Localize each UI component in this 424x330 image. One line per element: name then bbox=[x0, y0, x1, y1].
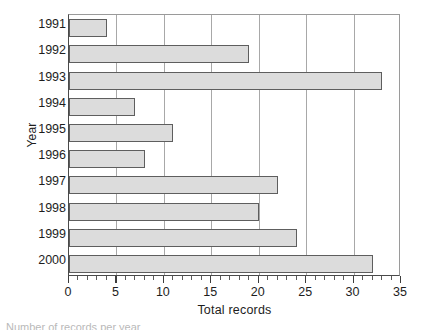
x-major-tick-10 bbox=[163, 276, 164, 283]
x-tick-label-35: 35 bbox=[380, 285, 420, 299]
x-minor-tick-34 bbox=[391, 276, 392, 280]
bar-1996 bbox=[69, 150, 145, 168]
bar-1992 bbox=[69, 45, 249, 63]
x-minor-tick-16 bbox=[220, 276, 221, 280]
x-minor-tick-21 bbox=[267, 276, 268, 280]
x-minor-tick-31 bbox=[362, 276, 363, 280]
x-minor-tick-14 bbox=[201, 276, 202, 280]
x-minor-tick-28 bbox=[334, 276, 335, 280]
x-major-tick-20 bbox=[258, 276, 259, 283]
x-minor-tick-26 bbox=[315, 276, 316, 280]
x-minor-tick-32 bbox=[372, 276, 373, 280]
x-tick-label-20: 20 bbox=[238, 285, 278, 299]
x-minor-tick-18 bbox=[239, 276, 240, 280]
y-axis-tick-labels: 1991199219931994199519961997199819992000 bbox=[24, 12, 66, 276]
bar-1995 bbox=[69, 124, 173, 142]
x-minor-tick-22 bbox=[277, 276, 278, 280]
x-minor-tick-9 bbox=[153, 276, 154, 280]
x-tick-label-15: 15 bbox=[190, 285, 230, 299]
bar-2000 bbox=[69, 255, 373, 273]
bar-1999 bbox=[69, 229, 297, 247]
bar-1991 bbox=[69, 19, 107, 37]
bar-1994 bbox=[69, 98, 135, 116]
x-minor-tick-1 bbox=[77, 276, 78, 280]
y-tick-label-1992: 1992 bbox=[24, 44, 66, 56]
x-minor-tick-33 bbox=[381, 276, 382, 280]
x-tick-label-5: 5 bbox=[95, 285, 135, 299]
y-tick-label-1999: 1999 bbox=[24, 228, 66, 240]
caption-sliver: Number of records per year bbox=[6, 322, 206, 330]
x-major-tick-25 bbox=[305, 276, 306, 283]
bar-row bbox=[69, 72, 401, 90]
bar-row bbox=[69, 229, 401, 247]
y-tick-label-1993: 1993 bbox=[24, 71, 66, 83]
plot-area bbox=[68, 14, 400, 276]
x-minor-tick-3 bbox=[96, 276, 97, 280]
y-tick-label-1994: 1994 bbox=[24, 97, 66, 109]
x-minor-tick-6 bbox=[125, 276, 126, 280]
x-major-tick-5 bbox=[115, 276, 116, 283]
x-tick-label-30: 30 bbox=[333, 285, 373, 299]
x-minor-tick-8 bbox=[144, 276, 145, 280]
x-axis-tick-marks bbox=[68, 276, 401, 283]
x-minor-tick-29 bbox=[343, 276, 344, 280]
y-tick-label-1998: 1998 bbox=[24, 202, 66, 214]
x-tick-label-25: 25 bbox=[285, 285, 325, 299]
x-major-tick-35 bbox=[400, 276, 401, 283]
x-major-tick-15 bbox=[210, 276, 211, 283]
bar-row bbox=[69, 255, 401, 273]
bar-chart-figure: Year 19911992199319941995199619971998199… bbox=[0, 0, 424, 330]
bar-1997 bbox=[69, 176, 278, 194]
bar-row bbox=[69, 150, 401, 168]
bar-row bbox=[69, 176, 401, 194]
bar-row bbox=[69, 19, 401, 37]
x-minor-tick-19 bbox=[248, 276, 249, 280]
x-minor-tick-2 bbox=[87, 276, 88, 280]
x-tick-label-0: 0 bbox=[48, 285, 88, 299]
y-tick-label-2000: 2000 bbox=[24, 254, 66, 266]
x-minor-tick-24 bbox=[296, 276, 297, 280]
bar-1998 bbox=[69, 203, 259, 221]
x-major-tick-30 bbox=[353, 276, 354, 283]
x-tick-label-10: 10 bbox=[143, 285, 183, 299]
x-minor-tick-4 bbox=[106, 276, 107, 280]
x-minor-tick-27 bbox=[324, 276, 325, 280]
x-axis-tick-labels: 05101520253035 bbox=[0, 285, 424, 301]
y-tick-label-1991: 1991 bbox=[24, 18, 66, 30]
bar-row bbox=[69, 124, 401, 142]
x-minor-tick-7 bbox=[134, 276, 135, 280]
bar-1993 bbox=[69, 72, 382, 90]
bar-row bbox=[69, 98, 401, 116]
y-tick-label-1996: 1996 bbox=[24, 149, 66, 161]
x-minor-tick-11 bbox=[172, 276, 173, 280]
y-tick-label-1995: 1995 bbox=[24, 123, 66, 135]
bar-row bbox=[69, 45, 401, 63]
y-tick-label-1997: 1997 bbox=[24, 175, 66, 187]
x-minor-tick-23 bbox=[286, 276, 287, 280]
x-major-tick-0 bbox=[68, 276, 69, 283]
x-minor-tick-12 bbox=[182, 276, 183, 280]
x-axis-title: Total records bbox=[68, 303, 401, 317]
x-minor-tick-17 bbox=[229, 276, 230, 280]
bar-row bbox=[69, 203, 401, 221]
x-minor-tick-13 bbox=[191, 276, 192, 280]
